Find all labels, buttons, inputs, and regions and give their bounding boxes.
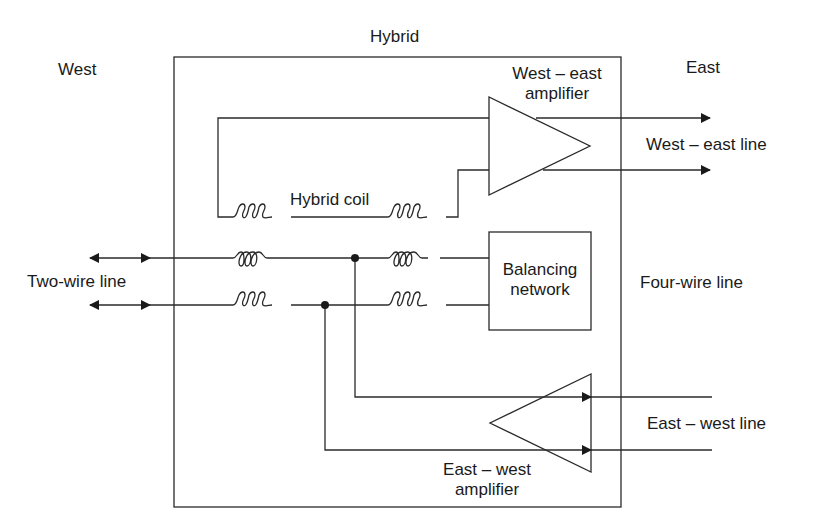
line-coil-bottom-left [233, 292, 272, 306]
east-label: East [686, 58, 720, 78]
east-west-amplifier [490, 374, 591, 472]
hybrid-coil-right [388, 204, 427, 218]
line-coil-top-left [233, 252, 287, 266]
west-label: West [58, 60, 96, 80]
hybrid-coil-label: Hybrid coil [290, 190, 369, 210]
west-east-amplifier [489, 97, 590, 195]
east-west-amplifier-label: East – west amplifier [432, 460, 542, 500]
hybrid-label: Hybrid [370, 27, 419, 47]
four-wire-line-label: Four-wire line [640, 273, 743, 293]
junction-dot-top [351, 254, 359, 262]
west-east-line-label: West – east line [646, 135, 767, 155]
east-west-line-label: East – west line [647, 414, 766, 434]
line-coil-bottom-right [388, 292, 427, 306]
hybrid-circuit-diagram [0, 0, 821, 532]
balancing-network-label: Balancing network [489, 260, 591, 300]
line-coil-top-right [388, 252, 428, 266]
two-wire-line-label: Two-wire line [27, 272, 126, 292]
west-east-amplifier-label: West – east amplifier [496, 64, 618, 104]
junction-dot-bottom [321, 301, 329, 309]
hybrid-coil-left [233, 204, 272, 218]
